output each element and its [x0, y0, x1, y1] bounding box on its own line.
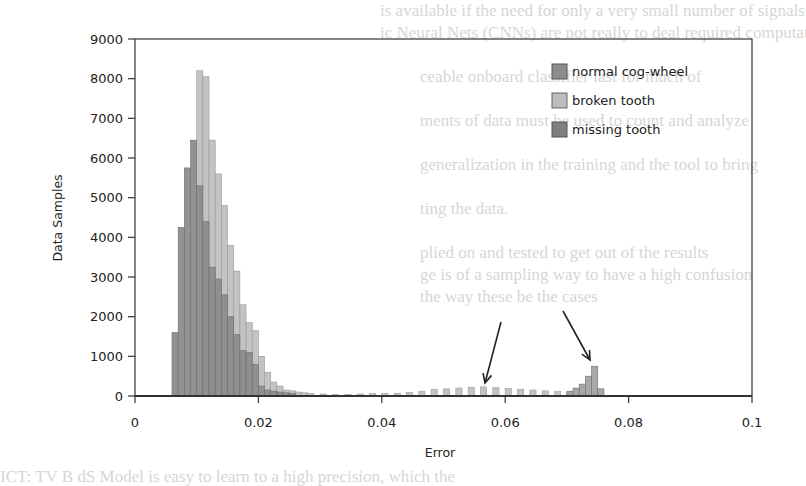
x-tick-label: 0 — [131, 415, 139, 430]
y-tick-label: 2000 — [90, 309, 123, 324]
y-tick-label: 3000 — [90, 270, 123, 285]
histogram-bar — [573, 388, 579, 396]
histogram-bar — [234, 335, 240, 396]
histogram-bar — [252, 364, 258, 396]
histogram-bars — [135, 71, 752, 396]
histogram-bar — [493, 388, 499, 396]
histogram-bar — [209, 267, 215, 396]
legend: normal cog-wheel broken tooth missing to… — [552, 64, 688, 137]
histogram-bar — [258, 386, 264, 396]
histogram-bar — [468, 387, 474, 396]
y-tick-label: 6000 — [90, 151, 123, 166]
legend-swatch-normal — [552, 64, 567, 79]
histogram-bar — [203, 221, 209, 396]
y-tick-label: 1000 — [90, 349, 123, 364]
histogram-bar — [197, 186, 203, 396]
annotation-arrow — [563, 311, 590, 360]
histogram-bar — [592, 366, 598, 396]
annotation-arrows — [483, 311, 590, 383]
x-tick-label: 0.02 — [244, 415, 273, 430]
y-tick-label: 8000 — [90, 71, 123, 86]
histogram-bar — [240, 350, 246, 396]
histogram-bar — [585, 376, 591, 396]
x-tick-label: 0.1 — [742, 415, 763, 430]
histogram-bar — [518, 389, 524, 396]
legend-swatch-broken — [552, 93, 567, 108]
x-tick-label: 0.08 — [614, 415, 643, 430]
histogram-bar — [172, 333, 178, 396]
legend-label-normal: normal cog-wheel — [572, 64, 688, 79]
histogram-bar — [178, 227, 184, 396]
histogram-bar — [598, 389, 604, 396]
y-tick-label: 7000 — [90, 111, 123, 126]
y-tick-label: 4000 — [90, 230, 123, 245]
x-axis-label: Error — [425, 445, 456, 460]
y-tick-label: 9000 — [90, 32, 123, 47]
histogram-bar — [456, 388, 462, 396]
histogram-bar — [191, 140, 197, 396]
y-tick-label: 5000 — [90, 190, 123, 205]
x-axis-ticks: 00.020.040.060.080.1 — [131, 396, 762, 430]
x-tick-label: 0.04 — [367, 415, 396, 430]
y-axis-label: Data Samples — [50, 174, 65, 261]
legend-swatch-missing — [552, 122, 567, 137]
y-tick-label: 0 — [115, 389, 123, 404]
histogram-bar — [481, 387, 487, 396]
histogram-bar — [431, 390, 437, 396]
histogram-chart: 00.020.040.060.080.1 0100020003000400050… — [0, 0, 806, 486]
histogram-bar — [184, 168, 190, 396]
y-axis-ticks: 0100020003000400050006000700080009000 — [90, 32, 135, 404]
legend-label-missing: missing tooth — [572, 122, 660, 137]
x-tick-label: 0.06 — [491, 415, 520, 430]
histogram-bar — [246, 352, 252, 396]
histogram-bar — [221, 295, 227, 396]
histogram-bar — [228, 317, 234, 396]
annotation-arrow — [485, 322, 501, 383]
histogram-bar — [444, 389, 450, 396]
histogram-bar — [579, 384, 585, 396]
histogram-bar — [505, 388, 511, 396]
histogram-bar — [215, 279, 221, 396]
legend-label-broken: broken tooth — [572, 93, 655, 108]
